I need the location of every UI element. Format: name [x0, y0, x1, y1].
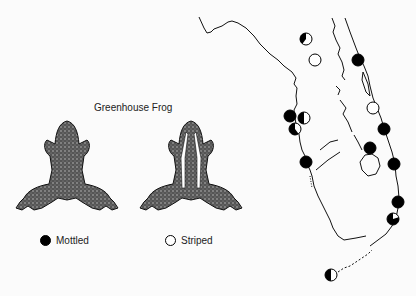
site-marker-mixed — [387, 213, 399, 225]
legend-label: Striped — [181, 235, 213, 246]
site-marker-mottled — [378, 123, 390, 135]
filled-circle-icon — [40, 235, 51, 246]
open-circle-icon — [165, 235, 176, 246]
site-marker-mottled — [352, 54, 364, 66]
site-marker-mottled — [300, 156, 312, 168]
florida-keys — [338, 250, 372, 272]
site-marker-mixed — [298, 112, 310, 124]
site-marker-mottled — [364, 142, 376, 154]
site-marker-striped — [309, 54, 321, 66]
legend-label: Mottled — [56, 235, 89, 246]
striped-frog-illustration — [136, 118, 246, 223]
atlantic-coastline — [345, 18, 399, 246]
site-marker-mixed — [325, 269, 337, 281]
site-marker-mottled — [388, 158, 400, 170]
mottled-frog-illustration — [12, 118, 122, 223]
site-marker-mixed — [300, 33, 312, 45]
chart-title: Greenhouse Frog — [94, 102, 172, 113]
site-marker-mottled — [392, 196, 404, 208]
legend-mottled: Mottled — [40, 235, 89, 246]
site-marker-mixed — [289, 123, 301, 135]
legend-striped: Striped — [165, 235, 213, 246]
lake-okeechobee — [360, 154, 380, 176]
site-marker-mottled — [284, 110, 296, 122]
site-marker-striped — [367, 102, 379, 114]
